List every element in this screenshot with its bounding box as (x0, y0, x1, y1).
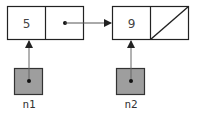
list-node-2: 9 (113, 7, 189, 40)
node-1-value: 5 (23, 17, 31, 31)
pointer-n1: n1 (15, 41, 43, 111)
pointer-n2: n2 (117, 41, 145, 111)
linked-list-diagram: 5 9 n1 n2 (0, 0, 201, 117)
pointer-n2-dot (129, 79, 133, 83)
pointer-n1-label: n1 (22, 98, 35, 111)
node-2-value: 9 (128, 17, 136, 31)
pointer-n1-dot (27, 79, 31, 83)
pointer-n2-label: n2 (124, 98, 137, 111)
